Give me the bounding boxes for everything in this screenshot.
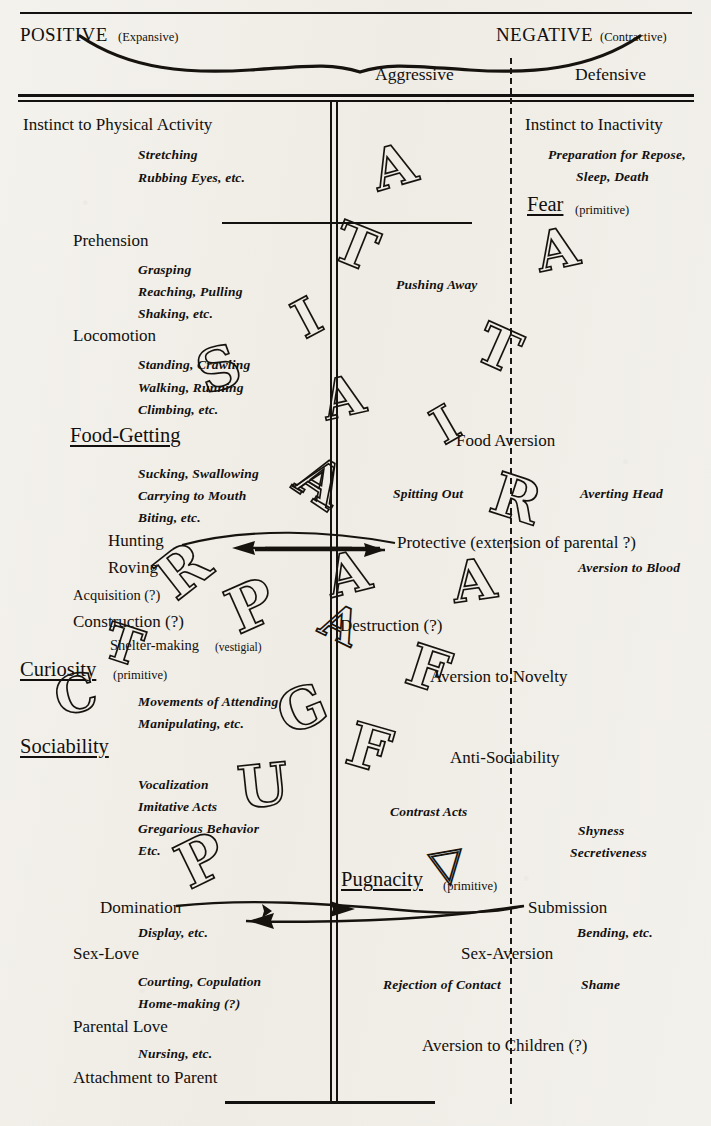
entry-aversion-to-children: Aversion to Children (?): [422, 1036, 587, 1056]
rule-header-b: [18, 100, 694, 102]
header-positive-paren: (Expansive): [118, 30, 178, 45]
sub-reaching-pulling: Reaching, Pulling: [138, 284, 243, 300]
watermark-letter-a-1: A: [365, 133, 422, 199]
entry-fear: Fear: [527, 193, 563, 216]
sub-movements-of-attending: Movements of Attending: [138, 694, 278, 710]
watermark-letter-v-1: ▽: [426, 840, 467, 889]
entry-rejection-of-contact: Rejection of Contact: [383, 977, 501, 993]
watermark-letter-f-2: F: [341, 713, 398, 782]
sub-stretching: Stretching: [138, 147, 198, 163]
column-header-defensive: Defensive: [575, 64, 646, 85]
entry-parental-love: Parental Love: [73, 1017, 168, 1037]
entry-pushing-away: Pushing Away: [396, 277, 478, 293]
entry-domination: Domination: [100, 898, 181, 918]
sub-home-making: Home-making (?): [138, 996, 240, 1012]
sub-vocalization: Vocalization: [138, 777, 209, 793]
sub-preparation-for-repose: Preparation for Repose,: [548, 147, 686, 163]
rule-top: [20, 12, 692, 14]
entry-sociability: Sociability: [20, 735, 109, 758]
sub-imitative-acts: Imitative Acts: [138, 799, 217, 815]
entry-sex-aversion: Sex-Aversion: [461, 944, 553, 964]
sub-climbing: Climbing, etc.: [138, 402, 218, 418]
sub-courting-copulation: Courting, Copulation: [138, 974, 261, 990]
sub-display: Display, etc.: [138, 925, 208, 941]
sub-rubbing-eyes: Rubbing Eyes, etc.: [138, 170, 245, 186]
header-negative: NEGATIVE: [496, 24, 593, 46]
entry-anti-sociability: Anti-Sociability: [450, 748, 560, 768]
entry-instinct-inactivity: Instinct to Inactivity: [525, 115, 663, 135]
watermark-letter-u-1: U: [235, 755, 291, 818]
entry-pugnacity: Pugnacity: [341, 868, 423, 891]
entry-fear-paren: (primitive): [575, 203, 629, 218]
watermark-letter-t-2: T: [468, 314, 529, 382]
header-positive: POSITIVE: [20, 24, 108, 46]
sub-carrying-to-mouth: Carrying to Mouth: [138, 488, 246, 504]
entry-attachment-to-parent: Attachment to Parent: [73, 1068, 217, 1088]
entry-spitting-out: Spitting Out: [393, 486, 463, 502]
sub-sucking-swallowing: Sucking, Swallowing: [138, 466, 259, 482]
sub-shame: Shame: [581, 977, 620, 993]
watermark-letter-g-1: G: [269, 673, 334, 743]
watermark-letter-a-8: A: [286, 448, 353, 519]
rule-header-a: [18, 94, 694, 97]
column-header-aggressive: Aggressive: [375, 64, 454, 85]
sub-etc: Etc.: [138, 843, 161, 859]
header-negative-paren: (Contractive): [600, 30, 667, 45]
sub-grasping: Grasping: [138, 262, 191, 278]
watermark-letter-a-7: A: [313, 594, 368, 653]
sub-shyness: Shyness: [578, 823, 624, 839]
entry-contrast-acts: Contrast Acts: [390, 804, 468, 820]
entry-instinct-physical-activity: Instinct to Physical Activity: [23, 115, 212, 135]
entry-prehension: Prehension: [73, 231, 149, 251]
sub-averting-head: Averting Head: [580, 486, 663, 502]
sub-sleep-death: Sleep, Death: [576, 169, 649, 185]
entry-food-getting: Food-Getting: [70, 424, 180, 447]
sub-nursing: Nursing, etc.: [138, 1046, 212, 1062]
watermark-letter-a-5: A: [448, 549, 499, 611]
watermark-letter-p-1: P: [217, 568, 285, 644]
watermark-letter-i-1: I: [284, 289, 330, 346]
entry-acquisition: Acquisition (?): [73, 587, 160, 604]
entry-locomotion: Locomotion: [73, 326, 156, 346]
watermark-letter-r-1: R: [484, 464, 548, 534]
sub-bending: Bending, etc.: [577, 925, 653, 941]
sub-aversion-to-blood: Aversion to Blood: [578, 560, 680, 576]
sub-secretiveness: Secretiveness: [570, 845, 647, 861]
entry-protective: Protective (extension of parental ?): [397, 533, 636, 553]
watermark-letter-i-2: I: [423, 398, 468, 453]
watermark-letter-a-2: A: [316, 366, 369, 428]
sub-manipulating: Manipulating, etc.: [138, 716, 244, 732]
watermark-letter-a-4: A: [531, 218, 583, 280]
sub-biting: Biting, etc.: [138, 510, 201, 526]
entry-aversion-to-novelty: Aversion to Novelty: [430, 667, 568, 687]
entry-sex-love: Sex-Love: [73, 944, 139, 964]
entry-submission: Submission: [528, 898, 607, 918]
entry-food-aversion: Food Aversion: [456, 431, 555, 451]
instinct-chart: POSITIVE (Expansive) NEGATIVE (Contracti…: [0, 0, 711, 1126]
sub-shaking: Shaking, etc.: [138, 306, 213, 322]
watermark-letter-f-1: F: [400, 635, 457, 703]
